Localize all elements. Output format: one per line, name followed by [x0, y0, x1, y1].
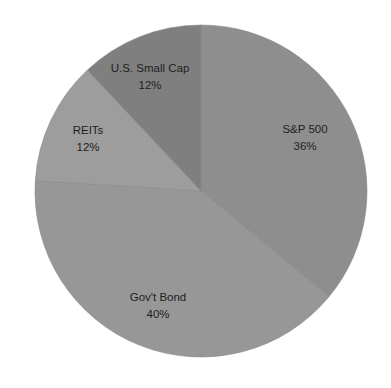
slice-value-us-small-cap: 12% — [138, 79, 161, 91]
slice-value-sp500: 36% — [293, 140, 316, 152]
pie-chart: S&P 500 36% Gov't Bond 40% REITs 12% U.S… — [0, 0, 391, 388]
slice-label-sp500: S&P 500 — [282, 123, 327, 135]
slice-value-govt-bond: 40% — [146, 308, 169, 320]
slice-label-govt-bond: Gov't Bond — [130, 291, 187, 303]
slice-label-us-small-cap: U.S. Small Cap — [111, 62, 190, 74]
slice-value-reits: 12% — [76, 141, 99, 153]
pie-slices — [35, 25, 367, 357]
slice-label-reits: REITs — [73, 124, 104, 136]
